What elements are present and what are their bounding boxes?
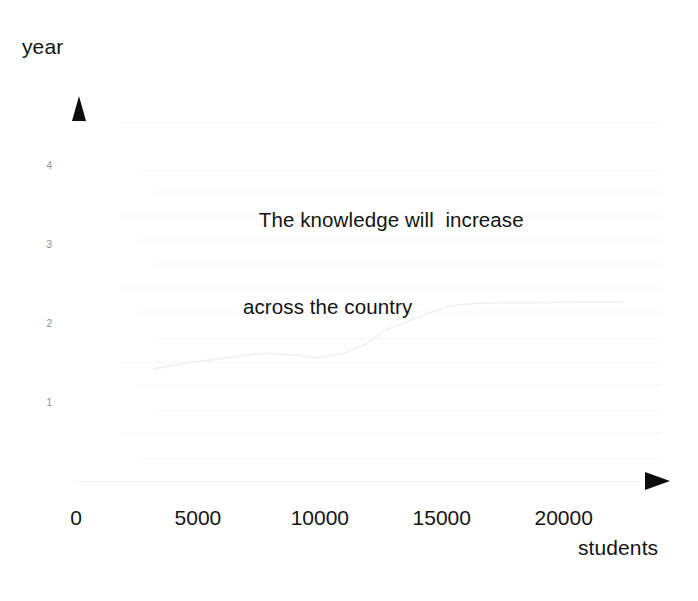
x-tick-label: 15000	[413, 506, 471, 530]
x-axis-line	[76, 481, 649, 482]
y-axis-title: year	[22, 35, 63, 59]
x-tick-label: 20000	[534, 506, 592, 530]
y-axis-arrow-icon	[72, 96, 86, 121]
y-tick-label: 3	[38, 239, 52, 250]
y-tick-label: 4	[38, 160, 52, 171]
y-tick-label: 2	[38, 318, 52, 329]
x-axis-arrow-icon	[645, 472, 670, 490]
chart-annotation-line-1: The knowledge will increase	[259, 208, 524, 231]
chart-canvas: year 1234 05000100001500020000 The knowl…	[0, 0, 698, 601]
y-tick-label: 1	[38, 397, 52, 408]
x-tick-label: 5000	[175, 506, 222, 530]
x-tick-label: 10000	[291, 506, 349, 530]
x-tick-label: 0	[70, 506, 82, 530]
x-axis-title: students	[578, 536, 658, 560]
chart-annotation-line-2: across the country	[236, 292, 556, 321]
chart-annotation: The knowledge will increase across the c…	[236, 176, 556, 379]
